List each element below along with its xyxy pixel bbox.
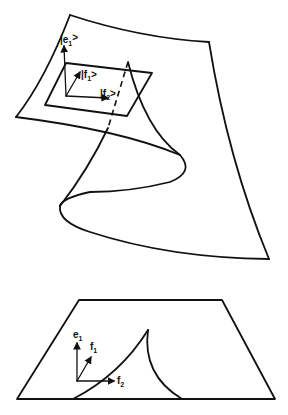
f2-label: f2 — [117, 375, 124, 388]
f2-ket-label: |f2> — [100, 88, 116, 101]
surface-left-edge — [16, 15, 70, 117]
f1-ket-arrow — [66, 72, 80, 96]
e1-label: e1 — [73, 329, 83, 342]
upper-surface — [16, 15, 269, 259]
diagram-canvas: |e1> |f1> |f2> e1 f1 f2 — [0, 0, 288, 415]
e1-ket-arrow — [64, 46, 66, 96]
e1-ket-label: |e1> — [60, 32, 78, 47]
f1-label: f1 — [90, 341, 97, 354]
f1-ket-label: |f1> — [81, 69, 97, 82]
fold-curve-right-branch — [60, 62, 186, 206]
upper-basis-vectors: |e1> |f1> |f2> — [60, 32, 116, 101]
cusp-left-branch — [73, 330, 148, 399]
surface-right-edge — [209, 42, 269, 259]
lower-plane — [17, 300, 275, 399]
surface-top-edge — [70, 15, 209, 42]
cusp-right-branch — [147, 330, 182, 399]
surface-bottom-edge — [60, 206, 269, 259]
lower-basis-vectors: e1 f1 f2 — [73, 329, 124, 388]
plane-trapezoid — [17, 300, 275, 399]
f1-arrow — [77, 357, 91, 381]
